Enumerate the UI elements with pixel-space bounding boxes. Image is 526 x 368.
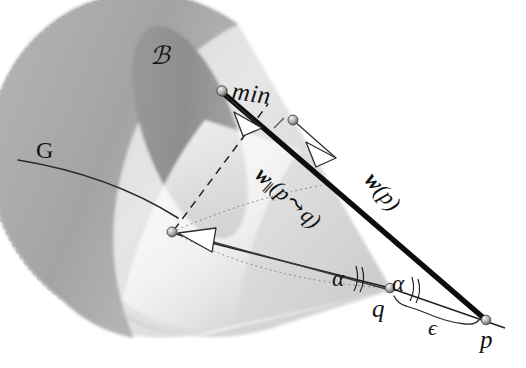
angle-alpha-right-label: α — [392, 272, 404, 295]
cone-rim-node — [217, 86, 227, 96]
geodesic-label: G — [36, 138, 53, 162]
angle-mark-right-arc1 — [410, 277, 414, 301]
min-label: min — [231, 78, 273, 108]
point-p-label: p — [480, 327, 493, 352]
geometry-figure: ℬ G min w∥(p ⤳ q) w(p) α α q p ϵ — [0, 0, 526, 368]
cone-label: ℬ — [150, 43, 170, 68]
epsilon-label: ϵ — [428, 317, 437, 339]
angle-mark-right-arc2 — [416, 279, 420, 303]
angle-mark-right — [410, 277, 420, 303]
cone-interior-node — [167, 227, 177, 237]
min-midpoint-node — [288, 115, 298, 125]
point-q-label: q — [372, 296, 385, 321]
angle-alpha-left-label: α — [332, 267, 344, 290]
point-p-node — [481, 315, 491, 325]
